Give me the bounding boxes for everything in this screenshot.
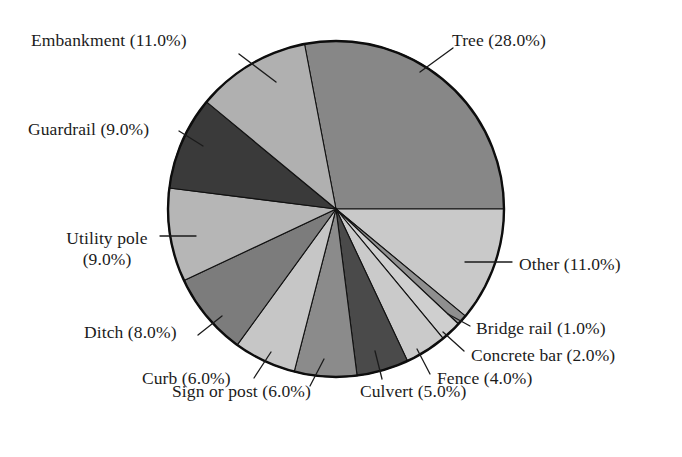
pie-label-tree: Tree (28.0%) <box>452 30 546 51</box>
pie-chart: Tree (28.0%) Embankment (11.0%) Guardrai… <box>0 0 682 457</box>
pie-label-guardrail: Guardrail (9.0%) <box>28 119 149 140</box>
pie-label-utility-pole-line1: Utility pole <box>66 228 147 248</box>
pie-slice-tree[interactable] <box>305 41 504 209</box>
pie-label-ditch: Ditch (8.0%) <box>84 322 177 343</box>
pie-label-bridge-rail: Bridge rail (1.0%) <box>476 318 606 339</box>
pie-label-utility-pole-line2: (9.0%) <box>83 249 132 269</box>
pie-label-sign-or-post: Sign or post (6.0%) <box>172 381 311 402</box>
leader-line-tree <box>420 48 453 72</box>
pie-label-embankment: Embankment (11.0%) <box>31 30 187 51</box>
pie-slices-group <box>168 41 504 377</box>
leader-line-concrete-bar <box>443 332 464 351</box>
pie-label-concrete-bar: Concrete bar (2.0%) <box>471 345 615 366</box>
pie-label-other: Other (11.0%) <box>519 254 621 275</box>
pie-label-fence: Fence (4.0%) <box>437 368 532 389</box>
pie-label-utility-pole: Utility pole (9.0%) <box>32 228 182 271</box>
